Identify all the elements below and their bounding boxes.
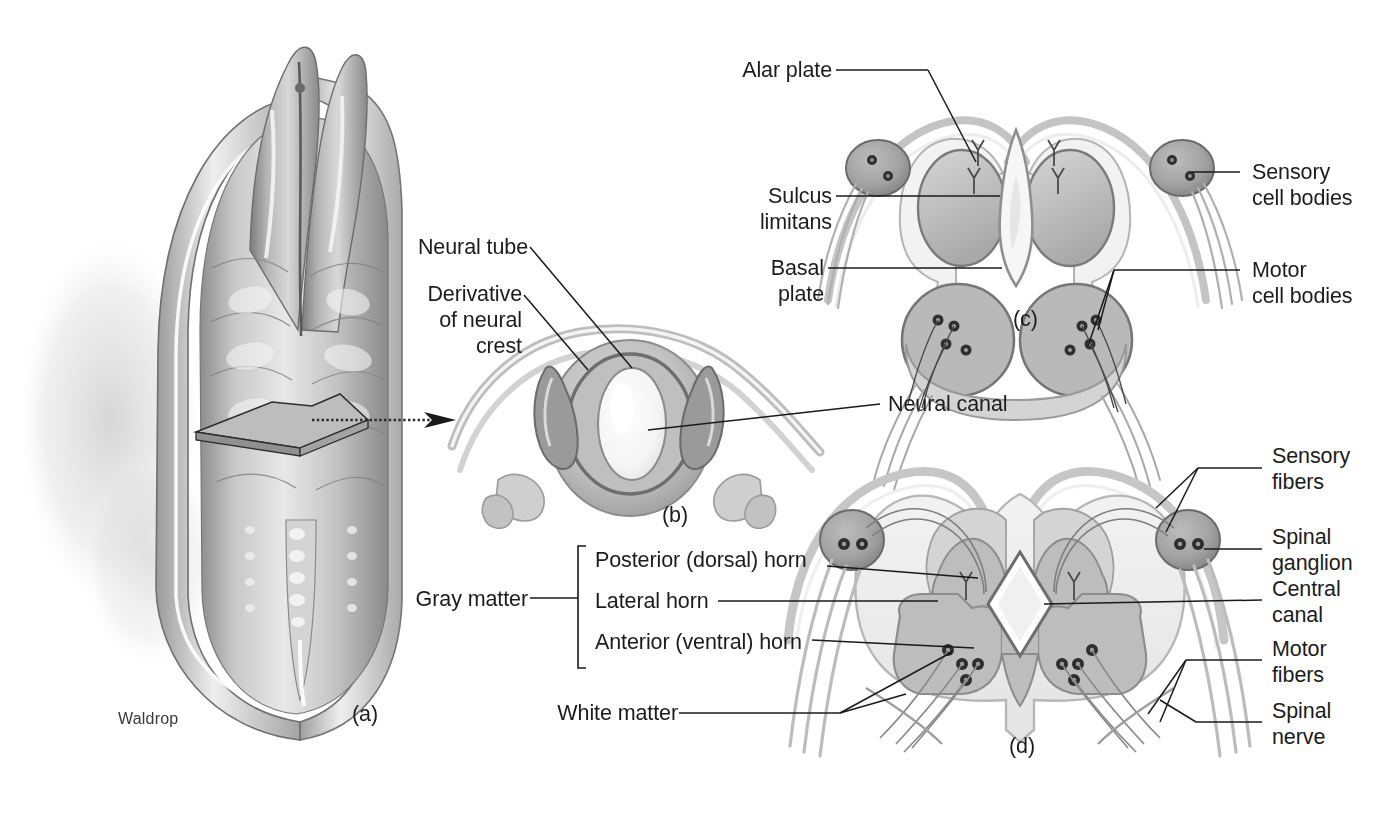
label-motor-fibers: Motor fibers: [1272, 636, 1326, 688]
label-central-canal: Central canal: [1272, 576, 1341, 628]
label-alar-plate: Alar plate: [620, 57, 832, 83]
label-sensory-fibers: Sensory fibers: [1272, 443, 1350, 495]
panel-a-illustration: [15, 47, 402, 740]
label-spinal-nerve: Spinal nerve: [1272, 698, 1331, 750]
label-motor-cell-bodies: Motor cell bodies: [1252, 257, 1353, 309]
label-anterior-horn: Anterior (ventral) horn: [595, 629, 802, 655]
label-sensory-cell-bodies: Sensory cell bodies: [1252, 159, 1353, 211]
panel-d-bracket: [530, 546, 586, 668]
figure-root: Neural tube Derivative of neural crest N…: [0, 0, 1400, 821]
panel-id-b: (b): [662, 503, 688, 528]
panel-id-d: (d): [1009, 734, 1035, 759]
figure-artwork: [0, 0, 1400, 821]
panel-c-illustration: [818, 70, 1242, 490]
label-basal-plate: Basal plate: [620, 255, 824, 307]
label-gray-matter: Gray matter: [300, 586, 528, 612]
label-neural-canal: Neural canal: [888, 391, 1008, 417]
label-posterior-horn: Posterior (dorsal) horn: [595, 547, 807, 573]
panel-id-c: (c): [1013, 307, 1038, 332]
label-neural-tube: Neural tube: [300, 234, 528, 260]
artist-signature: Waldrop: [118, 710, 178, 728]
label-derivative-of-neural-crest: Derivative of neural crest: [300, 281, 522, 359]
label-sulcus-limitans: Sulcus limitans: [620, 183, 832, 235]
label-lateral-horn: Lateral horn: [595, 588, 709, 614]
label-spinal-ganglion: Spinal ganglion: [1272, 524, 1353, 576]
label-white-matter: White matter: [440, 700, 678, 726]
panel-id-a: (a): [352, 702, 378, 727]
